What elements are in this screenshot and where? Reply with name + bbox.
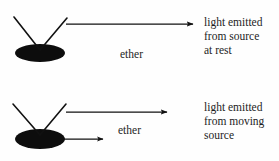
- ether-label-top: ether: [120, 48, 143, 61]
- caption-line: at rest: [204, 43, 262, 57]
- caption-line: from moving: [204, 114, 264, 128]
- source-ellipse-moving: [15, 129, 65, 149]
- panel-source-at-rest: [14, 17, 193, 62]
- panel-source-in-motion: [13, 104, 167, 149]
- caption-line: light emitted: [204, 15, 262, 29]
- antenna-left-arm-at-rest: [14, 17, 40, 50]
- caption-line: from source: [204, 29, 262, 43]
- antenna-right-arm-moving: [40, 104, 66, 135]
- antenna-left-arm-moving: [13, 104, 40, 135]
- figure-canvas: ether ether light emitted from source at…: [0, 0, 279, 161]
- caption-source-moving: light emitted from moving source: [204, 100, 264, 142]
- caption-line: source: [204, 128, 264, 142]
- antenna-right-arm-at-rest: [40, 18, 67, 50]
- ether-label-bottom: ether: [118, 124, 141, 137]
- caption-line: light emitted: [204, 100, 264, 114]
- source-ellipse-at-rest: [15, 44, 65, 62]
- caption-source-at-rest: light emitted from source at rest: [204, 15, 262, 57]
